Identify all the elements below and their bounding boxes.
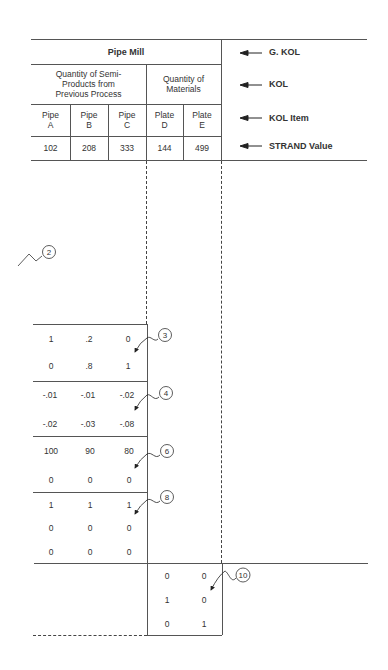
annotation-overlay <box>0 0 388 670</box>
arrow-left-icon <box>240 51 262 149</box>
callout-10-label: 10 <box>239 571 248 580</box>
callout-3-label: 3 <box>163 331 167 340</box>
callout-6-label: 6 <box>165 447 169 456</box>
callout-2-label: 2 <box>47 248 51 257</box>
callout-8-label: 8 <box>165 493 169 502</box>
callout-4-label: 4 <box>164 389 168 398</box>
